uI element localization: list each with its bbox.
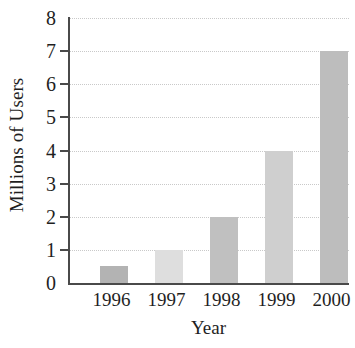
bar — [155, 250, 183, 283]
y-axis-tick-label: 1 — [22, 240, 56, 260]
bars-group — [70, 18, 349, 283]
y-axis-tick-label: 4 — [22, 141, 56, 161]
y-axis-tick-label: 3 — [22, 174, 56, 194]
x-axis-tick-label: 1999 — [251, 288, 303, 312]
y-axis-tick-label: 5 — [22, 107, 56, 127]
x-axis-title: Year — [68, 317, 349, 339]
y-axis-tick — [60, 116, 70, 118]
bar — [265, 151, 293, 284]
x-axis-tick-label: 1998 — [196, 288, 248, 312]
y-axis-tick-label: 7 — [22, 41, 56, 61]
bar — [210, 217, 238, 283]
y-axis-tick-label: 2 — [22, 207, 56, 227]
y-axis-tick-label: 6 — [22, 74, 56, 94]
bar — [100, 266, 128, 283]
x-axis-tick-label: 1996 — [86, 288, 138, 312]
plot-area: 012345678 — [68, 18, 349, 283]
y-axis-tick — [60, 183, 70, 185]
x-axis-tick-label: 1997 — [141, 288, 193, 312]
bar — [320, 51, 348, 283]
y-axis-tick-label: 0 — [22, 273, 56, 293]
y-axis-tick — [60, 50, 70, 52]
x-axis-tick-label: 2000 — [306, 288, 355, 312]
y-axis-tick — [60, 249, 70, 251]
y-axis-tick — [60, 216, 70, 218]
y-axis-tick-label: 8 — [22, 8, 56, 28]
x-axis-tick-labels: 19961997199819992000 — [68, 288, 349, 314]
y-axis-tick — [60, 83, 70, 85]
x-axis-line — [68, 283, 349, 285]
y-axis-tick — [60, 150, 70, 152]
